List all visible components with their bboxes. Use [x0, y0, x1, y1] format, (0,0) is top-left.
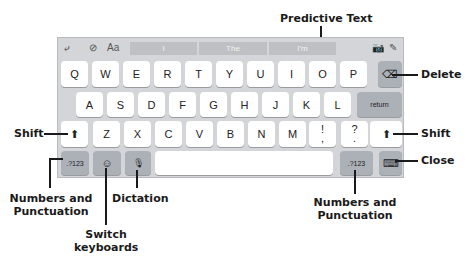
- undo-icon[interactable]: ⤶: [64, 42, 70, 54]
- key-s[interactable]: S: [107, 92, 134, 117]
- callout-line-switch: [105, 168, 107, 225]
- callout-line-numbers-left-h: [49, 158, 63, 160]
- camera-icon[interactable]: 📷: [372, 42, 384, 53]
- callout-line-numbers-right: [354, 170, 356, 194]
- numbers-key-right[interactable]: .?123: [340, 151, 373, 175]
- callout-dictation: Dictation: [112, 192, 169, 205]
- callout-numbers-left: Numbers and Punctuation: [8, 192, 94, 218]
- key-question-period[interactable]: ? .: [341, 121, 368, 147]
- key-o[interactable]: O: [309, 61, 336, 87]
- key-g[interactable]: G: [200, 92, 227, 117]
- key-r[interactable]: R: [154, 61, 181, 87]
- key-j[interactable]: J: [262, 92, 289, 117]
- callout-line-shift-right: [393, 133, 418, 135]
- callout-line-numbers-left-v: [49, 158, 51, 188]
- key-v[interactable]: V: [186, 121, 213, 147]
- key-t[interactable]: T: [185, 61, 212, 87]
- key-b[interactable]: B: [217, 121, 244, 147]
- key-a[interactable]: A: [76, 92, 103, 117]
- key-i[interactable]: I: [278, 61, 305, 87]
- space-bar[interactable]: [155, 151, 333, 175]
- callout-shift-left: Shift: [14, 127, 44, 140]
- predictive-suggestion[interactable]: I: [130, 42, 197, 55]
- key-d[interactable]: D: [138, 92, 165, 117]
- scribble-pen-icon[interactable]: ✎: [389, 42, 397, 53]
- key-c[interactable]: C: [155, 121, 182, 147]
- microphone-icon: 🎙: [133, 158, 144, 168]
- key-w[interactable]: W: [92, 61, 119, 87]
- key-bottom-char: .: [353, 134, 356, 143]
- key-x[interactable]: X: [124, 121, 151, 147]
- callout-switch-keyboards: Switch keyboards: [74, 228, 138, 254]
- dictation-key[interactable]: 🎙: [125, 151, 151, 175]
- key-y[interactable]: Y: [216, 61, 243, 87]
- key-n[interactable]: N: [248, 121, 275, 147]
- format-text-button[interactable]: Aa: [107, 42, 119, 53]
- key-h[interactable]: H: [231, 92, 258, 117]
- checkmark-circle-icon[interactable]: ⊘: [89, 42, 97, 53]
- callout-line-shift-left: [44, 133, 68, 135]
- key-l[interactable]: L: [324, 92, 351, 117]
- callout-line-close: [395, 160, 418, 162]
- key-k[interactable]: K: [293, 92, 320, 117]
- predictive-suggestion[interactable]: The: [199, 42, 267, 55]
- onscreen-keyboard: ⤶ ⊘ Aa I The I'm 📷 ✎ Q W E R T Y U I O P…: [57, 37, 404, 178]
- key-m[interactable]: M: [279, 121, 306, 147]
- callout-predictive-text: Predictive Text: [280, 12, 372, 25]
- switch-keyboard-key[interactable]: ☺: [93, 151, 121, 175]
- key-z[interactable]: Z: [93, 121, 120, 147]
- callout-line-delete: [392, 74, 418, 76]
- key-u[interactable]: U: [247, 61, 274, 87]
- key-bottom-char: ,: [321, 134, 324, 143]
- key-p[interactable]: P: [340, 61, 367, 87]
- close-keyboard-key[interactable]: ⌨: [379, 151, 402, 175]
- key-q[interactable]: Q: [61, 61, 88, 87]
- keyboard-dismiss-icon: ⌨: [383, 157, 399, 170]
- key-exclaim-comma[interactable]: ! ,: [309, 121, 336, 147]
- callout-shift-right: Shift: [421, 127, 451, 140]
- numbers-key-left[interactable]: .?123: [61, 151, 89, 175]
- callout-delete: Delete: [421, 68, 462, 81]
- callout-line-dictation: [136, 170, 138, 188]
- key-f[interactable]: F: [169, 92, 196, 117]
- key-e[interactable]: E: [123, 61, 150, 87]
- predictive-suggestion[interactable]: I'm: [269, 42, 336, 55]
- callout-close: Close: [421, 154, 454, 167]
- shift-icon: ⬆: [70, 128, 79, 141]
- shift-icon: ⬆: [382, 128, 391, 141]
- callout-numbers-right: Numbers and Punctuation: [312, 196, 398, 222]
- return-key[interactable]: return: [357, 92, 402, 117]
